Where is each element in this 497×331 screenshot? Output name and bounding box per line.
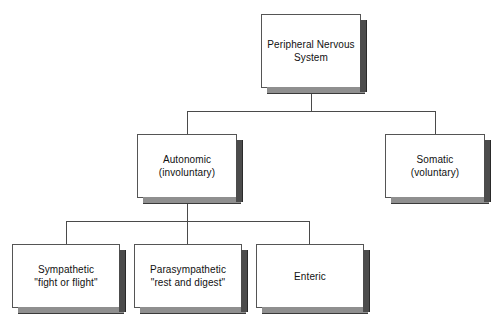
connector-to-somatic — [435, 111, 436, 134]
node-autonomic-label: Autonomic (involuntary) — [155, 153, 219, 179]
connector-level1-bus — [187, 111, 435, 112]
node-autonomic: Autonomic (involuntary) — [137, 134, 237, 198]
node-parasympathetic: Parasympathetic "rest and digest" — [134, 244, 242, 308]
node-somatic: Somatic (voluntary) — [385, 134, 485, 198]
node-peripheral-nervous-system: Peripheral Nervous System — [261, 14, 361, 88]
connector-to-autonomic — [187, 111, 188, 134]
node-sympathetic-label: Sympathetic "fight or flight" — [30, 263, 101, 289]
pns-hierarchy-diagram: Peripheral Nervous System Autonomic (inv… — [0, 0, 497, 331]
node-enteric: Enteric — [256, 244, 364, 308]
connector-to-sympathetic — [66, 221, 67, 244]
connector-to-parasympathetic — [187, 221, 188, 244]
connector-to-enteric — [309, 221, 310, 244]
node-sympathetic: Sympathetic "fight or flight" — [12, 244, 120, 308]
node-enteric-label: Enteric — [290, 270, 330, 283]
node-parasympathetic-label: Parasympathetic "rest and digest" — [146, 263, 230, 289]
node-peripheral-nervous-system-label: Peripheral Nervous System — [263, 38, 358, 64]
node-somatic-label: Somatic (voluntary) — [407, 153, 463, 179]
